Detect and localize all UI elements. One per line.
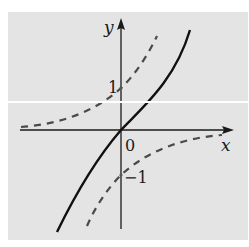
solid-curve [57,30,190,232]
tick-point-1 [119,86,122,89]
origin-label: 0 [125,136,135,155]
tick-point-neg1 [119,173,122,176]
y-tick-label-1: 1 [108,78,118,97]
function-graph: y x 0 1 −1 [0,0,249,247]
x-axis-label: x [221,135,231,155]
y-axis-label: y [103,17,114,37]
y-tick-label-neg1: −1 [124,168,148,187]
scan-artifact-line [0,101,249,103]
